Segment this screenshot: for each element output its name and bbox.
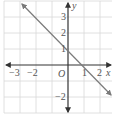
- y-tick-label-2: 2: [61, 27, 66, 38]
- y-tick-label-1: 1: [61, 43, 66, 54]
- coordinate-plane-graph: y x O −3 −2 1 2 3 2 1 −2: [0, 0, 115, 115]
- y-axis-label: y: [71, 0, 77, 11]
- x-axis-label: x: [105, 67, 111, 78]
- x-tick-label-2: 2: [97, 67, 102, 78]
- x-tick-label-neg2: −2: [27, 67, 38, 78]
- origin-label: O: [58, 68, 65, 79]
- y-tick-label-3: 3: [61, 11, 66, 22]
- y-tick-label-neg2: −2: [55, 91, 66, 102]
- x-tick-label-neg3: −3: [9, 67, 20, 78]
- x-tick-label-1: 1: [82, 67, 87, 78]
